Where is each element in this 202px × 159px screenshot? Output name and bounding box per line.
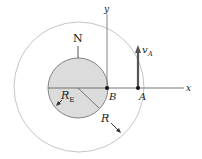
orbit-diagram: N y x B A RE R vA <box>0 0 202 159</box>
point-b-label: B <box>108 91 116 102</box>
point-a <box>136 86 140 90</box>
y-axis-label: y <box>103 4 110 14</box>
point-b <box>105 86 109 90</box>
point-a-label: A <box>138 91 146 102</box>
velocity-arrowhead <box>135 45 141 53</box>
orbit-radius-label: R <box>100 112 109 125</box>
velocity-label: vA <box>142 44 153 58</box>
x-axis-label: x <box>186 83 191 93</box>
north-label: N <box>73 32 83 45</box>
